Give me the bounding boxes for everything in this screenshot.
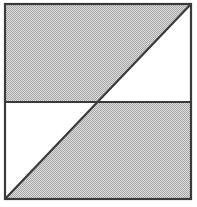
figure-container xyxy=(0,0,197,207)
geometric-figure xyxy=(0,0,197,207)
